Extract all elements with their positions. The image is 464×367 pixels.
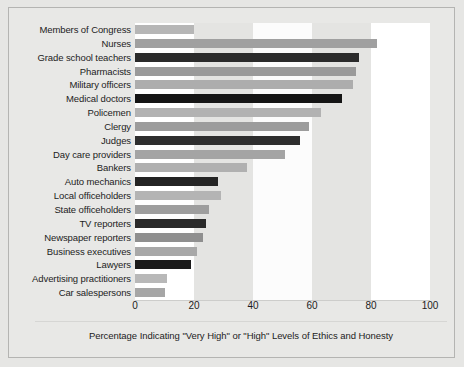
- bar-row: [135, 92, 430, 106]
- plot-area: [135, 23, 430, 300]
- bar: [135, 53, 359, 62]
- bar-row: [135, 134, 430, 148]
- category-label: Members of Congress: [19, 23, 131, 37]
- bar-row: [135, 106, 430, 120]
- bar-row: [135, 258, 430, 272]
- bar: [135, 191, 221, 200]
- category-label: Nurses: [19, 37, 131, 51]
- category-label: Grade school teachers: [19, 51, 131, 65]
- x-tick-label: 100: [422, 300, 439, 311]
- x-tick-label: 80: [365, 300, 376, 311]
- bar-row: [135, 161, 430, 175]
- bar-row: [135, 231, 430, 245]
- category-label: Day care providers: [19, 148, 131, 162]
- bar-row: [135, 120, 430, 134]
- x-tick-label: 20: [188, 300, 199, 311]
- chart-figure: Members of CongressNursesGrade school te…: [0, 0, 464, 367]
- bar-row: [135, 51, 430, 65]
- bar-row: [135, 217, 430, 231]
- bar: [135, 163, 247, 172]
- x-tick-label: 60: [306, 300, 317, 311]
- category-label: Lawyers: [19, 258, 131, 272]
- bar-row: [135, 189, 430, 203]
- bar: [135, 94, 342, 103]
- bar: [135, 288, 165, 297]
- bar-row: [135, 245, 430, 259]
- x-axis-ticks: 020406080100: [135, 300, 430, 314]
- category-label: Business executives: [19, 245, 131, 259]
- bar: [135, 233, 203, 242]
- category-label: Local officeholders: [19, 189, 131, 203]
- bar-row: [135, 65, 430, 79]
- x-tick-label: 40: [247, 300, 258, 311]
- category-label: State officeholders: [19, 203, 131, 217]
- bar: [135, 108, 321, 117]
- category-label: Clergy: [19, 120, 131, 134]
- bar: [135, 219, 206, 228]
- category-label: Policemen: [19, 106, 131, 120]
- category-label: Car salespersons: [19, 286, 131, 300]
- bar: [135, 136, 300, 145]
- category-label: Newspaper reporters: [19, 231, 131, 245]
- x-tick-label: 0: [132, 300, 138, 311]
- bar: [135, 274, 167, 283]
- bar: [135, 80, 353, 89]
- bar-row: [135, 23, 430, 37]
- bar-row: [135, 148, 430, 162]
- bar-row: [135, 37, 430, 51]
- bar-row: [135, 175, 430, 189]
- category-label: Advertising practitioners: [19, 272, 131, 286]
- category-axis-labels: Members of CongressNursesGrade school te…: [19, 23, 131, 300]
- bar: [135, 260, 191, 269]
- chart-caption: Percentage Indicating "Very High" or "Hi…: [35, 330, 447, 341]
- category-label: Bankers: [19, 161, 131, 175]
- bar: [135, 247, 197, 256]
- category-label: TV reporters: [19, 217, 131, 231]
- bar: [135, 205, 209, 214]
- category-label: Military officers: [19, 78, 131, 92]
- caption-divider: [35, 321, 447, 322]
- bar-row: [135, 272, 430, 286]
- category-label: Auto mechanics: [19, 175, 131, 189]
- bar: [135, 67, 356, 76]
- chart-frame: Members of CongressNursesGrade school te…: [8, 7, 455, 358]
- category-label: Judges: [19, 134, 131, 148]
- bar: [135, 39, 377, 48]
- bar: [135, 177, 218, 186]
- category-label: Medical doctors: [19, 92, 131, 106]
- category-label: Pharmacists: [19, 65, 131, 79]
- bar-row: [135, 78, 430, 92]
- bar: [135, 150, 285, 159]
- bar-row: [135, 286, 430, 300]
- bar: [135, 25, 194, 34]
- bar-row: [135, 203, 430, 217]
- bar-rows: [135, 23, 430, 300]
- bar: [135, 122, 309, 131]
